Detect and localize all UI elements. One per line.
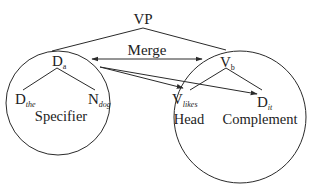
merge-label: Merge <box>128 42 167 58</box>
d-it-node: Dit <box>257 94 273 112</box>
d-the-node: Dthe <box>15 91 36 109</box>
vp-label: VP <box>133 11 152 27</box>
head-label: Head <box>174 111 205 127</box>
d-a-node: Da <box>52 53 67 71</box>
d-a-branches <box>23 68 95 90</box>
merge-diagram: VP Merge Da Vb Dthe Ndog Specifier Vlike… <box>0 0 312 188</box>
specifier-label: Specifier <box>35 108 88 124</box>
v-b-node: Vb <box>220 54 235 72</box>
v-likes-node: Vlikes <box>172 91 198 109</box>
n-dog-node: Ndog <box>88 91 111 109</box>
arrow-to-v-likes <box>100 67 183 88</box>
v-b-branches <box>190 68 262 90</box>
complement-label: Complement <box>223 111 298 127</box>
